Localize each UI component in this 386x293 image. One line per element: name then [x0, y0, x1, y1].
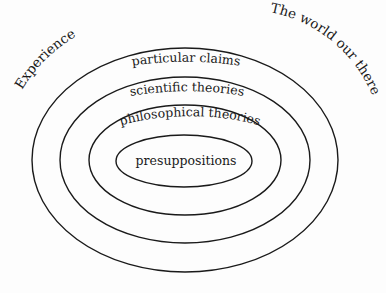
label-presuppositions: presuppositions: [136, 153, 237, 168]
label-experience: Experience: [11, 25, 78, 91]
label-particular-claims: particular claims: [131, 50, 242, 69]
label-world-out-there: The world our there: [269, 0, 384, 97]
nested-ellipses-diagram: Experience The world our there particula…: [0, 0, 386, 293]
label-philosophical-theories: philosophical theories: [117, 104, 262, 128]
label-scientific-theories: scientific theories: [129, 79, 246, 99]
